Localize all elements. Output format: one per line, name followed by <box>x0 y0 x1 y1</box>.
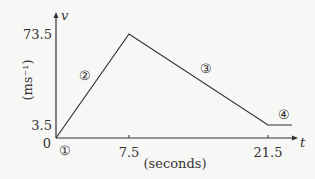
y-tick-label-3.5: 3.5 <box>31 118 52 133</box>
x-axis-symbol: t <box>300 135 306 150</box>
x-axis-arrow-icon <box>292 136 298 141</box>
x-tick-label-21.5: 21.5 <box>254 145 283 160</box>
x-tick-label-7.5: 7.5 <box>119 145 140 160</box>
origin-label: 0 <box>43 136 51 151</box>
velocity-line <box>56 34 292 138</box>
y-axis-symbol: v <box>61 8 69 23</box>
velocity-time-graph: v t 73.5 3.5 0 7.5 21.5 (seconds) (ms⁻¹)… <box>0 0 315 179</box>
x-axis-unit: (seconds) <box>144 156 207 171</box>
segment-3-marker: ③ <box>200 61 212 76</box>
y-tick-label-73.5: 73.5 <box>23 27 52 42</box>
segment-4-marker: ④ <box>278 107 290 122</box>
segment-2-marker: ② <box>79 68 91 83</box>
segment-1-marker: ① <box>59 143 71 158</box>
y-axis-arrow-icon <box>54 12 59 18</box>
y-axis-unit: (ms⁻¹) <box>20 59 35 100</box>
